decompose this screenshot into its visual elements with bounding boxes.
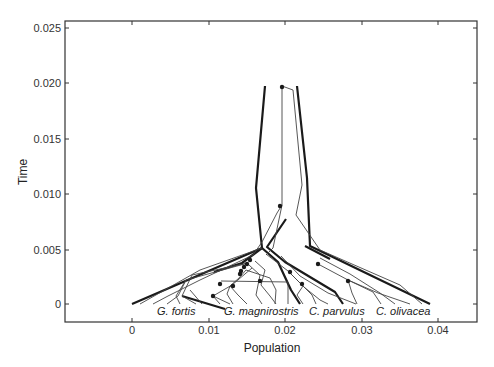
species-labels: G. fortis G. magnirostris C. parvulus C.… bbox=[157, 305, 430, 317]
x-axis-title: Population bbox=[244, 341, 301, 355]
species-label-c-parvulus: C. parvulus bbox=[309, 305, 365, 317]
x-tick-label: 0.01 bbox=[198, 324, 219, 336]
species-label-c-olivacea: C. olivacea bbox=[376, 305, 430, 317]
y-tick-label: 0.025 bbox=[33, 22, 61, 34]
y-tick-label: 0.020 bbox=[33, 77, 61, 89]
y-tick-labels: 0.025 0.020 0.015 0.010 0.005 0 bbox=[33, 22, 61, 310]
gene-tree bbox=[140, 86, 422, 304]
x-tick-label: 0.03 bbox=[351, 324, 372, 336]
coalescent-chart: 0.025 0.020 0.015 0.010 0.005 0 Time 0 0… bbox=[0, 0, 494, 367]
x-tick-labels: 0 0.01 0.02 0.03 0.04 bbox=[129, 324, 449, 336]
plot-frame bbox=[65, 21, 477, 322]
y-tick-label: 0.015 bbox=[33, 133, 61, 145]
y-tick-label: 0.010 bbox=[33, 188, 61, 200]
y-tick-label: 0 bbox=[55, 298, 61, 310]
y-axis-title: Time bbox=[16, 159, 30, 186]
y-tick-label: 0.005 bbox=[33, 244, 61, 256]
species-label-g-fortis: G. fortis bbox=[157, 305, 196, 317]
x-tick-label: 0.04 bbox=[427, 324, 448, 336]
species-label-g-magnirostris: G. magnirostris bbox=[224, 305, 299, 317]
species-tree bbox=[132, 86, 430, 309]
x-tick-label: 0 bbox=[129, 324, 135, 336]
y-axis bbox=[65, 28, 477, 304]
x-tick-label: 0.02 bbox=[274, 324, 295, 336]
